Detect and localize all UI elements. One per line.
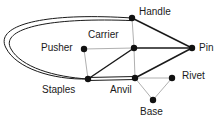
edge-line-pusher-carrier [84, 48, 134, 49]
node-label-base: Base [140, 106, 163, 117]
node-anvil[interactable] [132, 75, 138, 81]
edge-line-pusher-staples [84, 49, 88, 79]
node-handle[interactable] [129, 15, 135, 21]
node-rivet[interactable] [169, 75, 175, 81]
edge-line-carrier-anvil [134, 48, 135, 78]
edge-staples-anvil [88, 77, 135, 81]
edge-staples-carrier [88, 48, 134, 79]
graph-svg [0, 0, 223, 126]
edge-line-staples-anvil [88, 77, 135, 78]
edge-line-staples-anvil [88, 79, 135, 80]
edge-line-handle-pin [132, 18, 192, 48]
edge-pusher-staples [84, 49, 88, 79]
node-base[interactable] [150, 97, 156, 103]
edge-pusher-carrier [84, 48, 134, 49]
node-pusher[interactable] [81, 46, 87, 52]
edge-handle-pin [132, 18, 192, 48]
edge-rivet-base [153, 78, 172, 100]
edge-anvil-base [135, 78, 153, 100]
node-pin[interactable] [189, 45, 195, 51]
edge-line-staples-carrier [88, 48, 134, 79]
node-label-pusher: Pusher [41, 42, 73, 53]
node-label-handle: Handle [139, 6, 171, 17]
edge-line-handle-carrier [132, 18, 134, 48]
node-label-rivet: Rivet [182, 70, 205, 81]
node-staples[interactable] [85, 76, 91, 82]
node-label-anvil: Anvil [110, 84, 132, 95]
edge-carrier-anvil [134, 48, 135, 78]
edge-line-rivet-base [153, 78, 172, 100]
node-carrier[interactable] [131, 45, 137, 51]
diagram-canvas: HandlePusherCarrierPinStaplesAnvilRivetB… [0, 0, 223, 126]
edge-handle-carrier [132, 18, 134, 48]
node-label-staples: Staples [42, 84, 75, 95]
node-label-pin: Pin [199, 42, 213, 53]
node-label-carrier: Carrier [88, 29, 119, 40]
edge-line-anvil-base [135, 78, 153, 100]
